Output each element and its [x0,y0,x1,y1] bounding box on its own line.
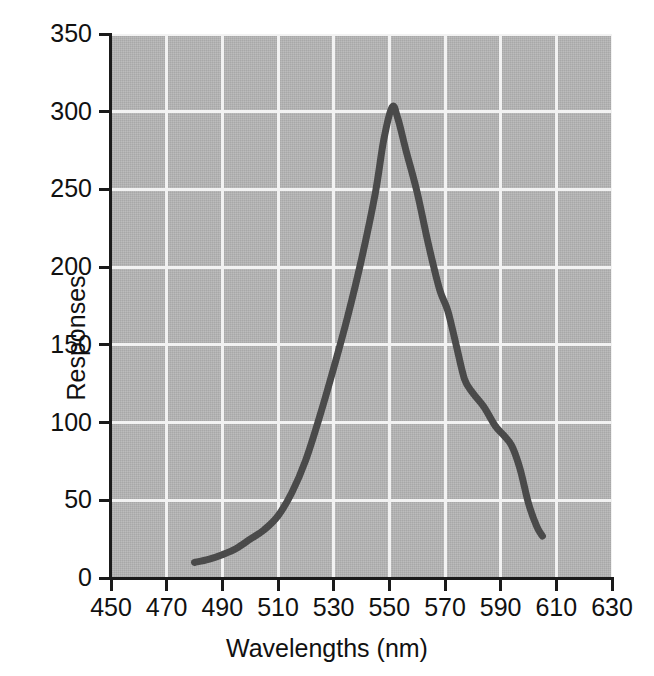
y-axis-tick [99,110,110,113]
y-axis-tick [99,499,110,502]
x-axis-tick-label: 630 [591,595,633,620]
y-axis-tick [99,343,110,346]
x-axis-tick-label: 490 [201,595,243,620]
data-series-line [195,106,543,562]
y-axis-tick [99,421,110,424]
y-axis-tick [99,33,110,36]
x-axis-line [109,577,614,580]
x-axis-tick-label: 570 [424,595,466,620]
x-axis-tick-label: 450 [90,595,132,620]
y-axis-label: Responses [62,275,91,400]
x-axis-tick [555,580,558,591]
y-axis-tick [99,577,110,580]
y-axis-tick-label: 250 [50,176,92,201]
y-axis-tick-label: 350 [50,21,92,46]
y-axis-tick-label: 0 [78,565,92,590]
x-axis-tick-label: 470 [146,595,188,620]
x-axis-tick-label: 590 [480,595,522,620]
x-axis-tick-label: 550 [368,595,410,620]
x-axis-tick [611,580,614,591]
y-axis-tick-label: 300 [50,99,92,124]
y-axis-tick-label: 50 [64,487,92,512]
plot-area [111,34,612,578]
x-axis-tick [332,580,335,591]
x-axis-tick [110,580,113,591]
x-axis-tick-label: 510 [257,595,299,620]
response-curve [111,34,612,578]
x-axis-tick [221,580,224,591]
x-axis-tick [277,580,280,591]
x-axis-label: Wavelengths (nm) [0,634,654,663]
x-axis-tick [499,580,502,591]
y-axis-tick [99,266,110,269]
x-axis-tick-label: 530 [313,595,355,620]
x-axis-tick [165,580,168,591]
chart-container: 050100150200250300350 450470490510530550… [0,0,654,676]
x-axis-tick-label: 610 [535,595,577,620]
y-axis-tick-label: 100 [50,410,92,435]
x-axis-tick [444,580,447,591]
y-axis-tick [99,188,110,191]
x-axis-tick [388,580,391,591]
